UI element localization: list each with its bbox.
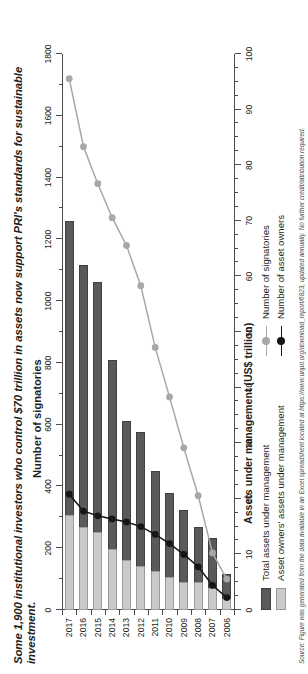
- category-tick: [148, 610, 149, 615]
- aum-tick-label: 90: [244, 105, 254, 115]
- legend-label-signatories: Number of signatories: [260, 225, 271, 319]
- bar-group: 2016: [79, 54, 88, 610]
- signatories-tick-label: 1400: [43, 168, 53, 187]
- bar-group: 2009: [179, 54, 188, 610]
- bar-group: 2013: [122, 54, 131, 610]
- plot-area: 2006200720082009201020112012201320142015…: [62, 54, 234, 610]
- aum-tick: [235, 359, 238, 360]
- aum-tick: [235, 53, 241, 54]
- aum-tick: [235, 164, 241, 165]
- category-tick: [205, 610, 206, 615]
- aum-tick: [235, 234, 238, 235]
- aum-tick-label: 70: [244, 216, 254, 226]
- bar-owners-aum: [108, 549, 117, 610]
- figure: Some 1,900 institutional investors who c…: [6, 0, 308, 674]
- category-tick: [177, 610, 178, 615]
- bar-owners-aum: [179, 582, 188, 610]
- year-label: 2015: [93, 612, 103, 637]
- legend-item-total-aum: Total assets under management: [258, 405, 273, 610]
- aum-tick-label: 60: [244, 272, 254, 282]
- category-tick: [91, 610, 92, 615]
- aum-tick: [235, 373, 238, 374]
- aum-axis: 0102030405060708090100: [234, 54, 241, 610]
- aum-tick: [235, 331, 241, 332]
- aum-tick: [235, 206, 238, 207]
- year-label: 2008: [193, 612, 203, 637]
- bar-group: 2007: [208, 54, 217, 610]
- bar-group: 2006: [222, 54, 231, 610]
- category-tick: [191, 610, 192, 615]
- signatories-tick-label: 600: [43, 418, 53, 432]
- aum-tick: [235, 387, 241, 388]
- aum-tick: [235, 609, 241, 610]
- aum-tick-label: 80: [244, 160, 254, 170]
- year-label: 2006: [222, 612, 232, 637]
- aum-tick: [235, 81, 238, 82]
- aum-tick: [235, 470, 238, 471]
- chart-stage: Some 1,900 institutional investors who c…: [6, 0, 308, 674]
- black-line-marker-icon: [276, 326, 286, 356]
- aum-tick: [235, 178, 238, 179]
- year-label: 2009: [179, 612, 189, 637]
- category-tick: [162, 610, 163, 615]
- signatories-tick-label: 400: [43, 479, 53, 493]
- aum-tick-label: 50: [244, 327, 254, 337]
- aum-tick: [235, 67, 238, 68]
- aum-tick: [235, 150, 238, 151]
- secondary-axis-title: Number of signatories: [31, 359, 43, 478]
- signatories-tick-label: 0: [43, 608, 53, 613]
- aum-tick: [235, 526, 238, 527]
- category-tick: [220, 610, 221, 615]
- year-label: 2013: [121, 612, 131, 637]
- legend-bars: Total assets under management Asset owne…: [258, 405, 288, 610]
- signatories-tick-label: 1200: [43, 230, 53, 249]
- aum-tick: [235, 192, 238, 193]
- category-tick: [119, 610, 120, 615]
- bar-owners-aum: [151, 571, 160, 610]
- year-label: 2014: [107, 612, 117, 637]
- aum-tick: [235, 248, 238, 249]
- aum-tick: [235, 484, 238, 485]
- bar-owners-aum: [122, 560, 131, 610]
- bar-owners-aum: [136, 566, 145, 610]
- year-label: 2007: [207, 612, 217, 637]
- signatories-tick-label: 200: [43, 541, 53, 555]
- category-tick: [76, 610, 77, 615]
- signatories-tick-label: 800: [43, 356, 53, 370]
- aum-tick: [235, 136, 238, 137]
- year-label: 2012: [136, 612, 146, 637]
- aum-tick: [235, 289, 238, 290]
- bar-group: 2010: [165, 54, 174, 610]
- aum-tick: [235, 428, 238, 429]
- aum-tick: [235, 456, 238, 457]
- bar-owners-aum: [79, 527, 88, 610]
- category-tick: [105, 610, 106, 615]
- gray-line-marker-icon: [261, 326, 271, 356]
- aum-tick: [235, 95, 238, 96]
- aum-tick-label: 100: [244, 47, 254, 61]
- aum-tick: [235, 567, 238, 568]
- source-note: Source: Figure was generated from the da…: [298, 10, 306, 664]
- aum-tick: [235, 414, 238, 415]
- light-swatch-icon: [276, 588, 286, 610]
- legend-lines: Number of signatories Number of asset ow…: [258, 215, 288, 356]
- aum-tick: [235, 109, 241, 110]
- category-tick: [234, 610, 235, 615]
- aum-tick-label: 40: [244, 383, 254, 393]
- aum-tick: [235, 512, 238, 513]
- legend-item-signatories: Number of signatories: [258, 215, 273, 356]
- bar-owners-aum: [194, 582, 203, 610]
- signatories-tick-label: 1800: [43, 44, 53, 63]
- bar-group: 2015: [93, 54, 102, 610]
- aum-tick: [235, 540, 238, 541]
- signatories-tick-label: 1600: [43, 106, 53, 125]
- aum-tick: [235, 345, 238, 346]
- aum-tick: [235, 262, 238, 263]
- bar-group: 2008: [194, 54, 203, 610]
- legend-item-asset-owners: Number of asset owners: [273, 215, 288, 356]
- aum-tick: [235, 581, 238, 582]
- bar-group: 2017: [65, 54, 74, 610]
- bar-owners-aum: [222, 599, 231, 610]
- aum-tick: [235, 220, 241, 221]
- legend-label-owners-aum: Asset owners' assets under management: [275, 405, 286, 581]
